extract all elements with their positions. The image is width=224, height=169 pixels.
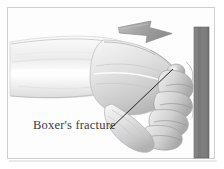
boxers-fracture-label: Boxer's fracture (33, 118, 116, 132)
figure-root: Boxer's fracture (0, 0, 224, 169)
illustration-canvas (0, 0, 224, 169)
impact-wall (194, 27, 209, 158)
